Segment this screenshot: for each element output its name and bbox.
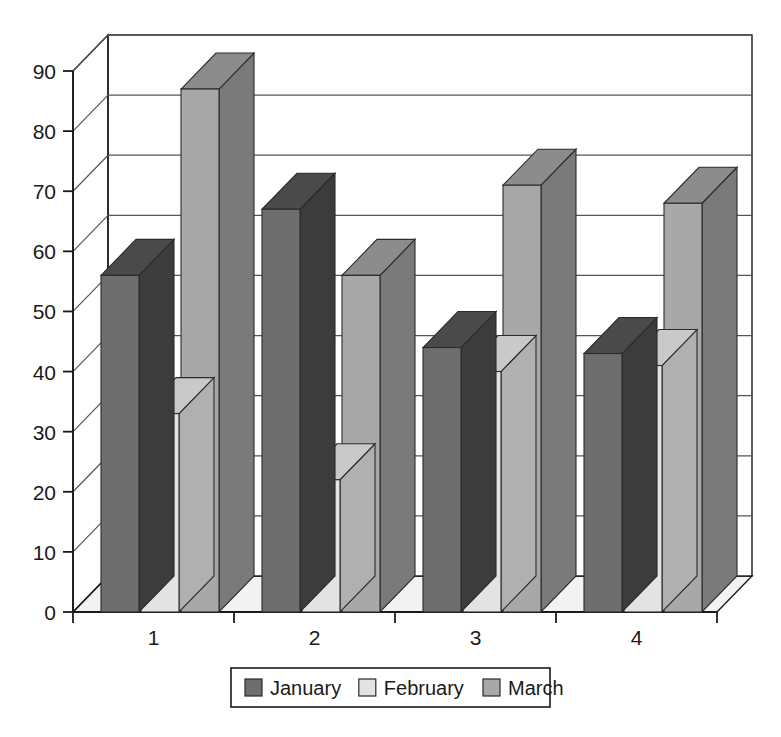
y-tick-label: 20 (33, 481, 56, 504)
legend-swatch (359, 679, 376, 696)
x-axis-ticks: 1234 (73, 612, 717, 649)
bar-january-1[interactable] (101, 239, 174, 612)
y-tick-label: 10 (33, 541, 56, 564)
bar-january-2[interactable] (262, 173, 335, 612)
bar-front-face (262, 209, 300, 612)
bar-side-face (380, 239, 415, 612)
y-tick-label: 0 (44, 601, 56, 624)
y-tick-label: 80 (33, 120, 56, 143)
bar-january-3[interactable] (423, 312, 496, 612)
gridline-depth-connector (73, 35, 108, 71)
gridline-depth-connector (73, 95, 108, 131)
bar-side-face (300, 173, 335, 612)
legend: JanuaryFebruaryMarch (231, 668, 564, 707)
y-tick-label: 70 (33, 180, 56, 203)
legend-label: January (270, 677, 341, 699)
legend-swatch (483, 679, 500, 696)
gridline-depth-connector (73, 215, 108, 251)
bar-side-face (501, 336, 536, 612)
y-tick-label: 40 (33, 361, 56, 384)
y-tick-label: 50 (33, 300, 56, 323)
legend-item-february[interactable]: February (359, 677, 464, 699)
legend-item-january[interactable]: January (245, 677, 341, 699)
y-axis-ticks: 0102030405060708090 (33, 60, 73, 624)
legend-label: March (508, 677, 564, 699)
legend-label: February (384, 677, 464, 699)
x-tick-label: 1 (148, 626, 160, 649)
bar-side-face (622, 318, 657, 612)
bar-front-face (423, 348, 461, 612)
bar-side-face (179, 378, 214, 612)
x-tick-label: 2 (309, 626, 321, 649)
bar-side-face (139, 239, 174, 612)
bar-side-face (219, 53, 254, 612)
x-tick-label: 4 (631, 626, 643, 649)
y-tick-label: 60 (33, 240, 56, 263)
bar-side-face (461, 312, 496, 612)
bar-side-face (702, 167, 737, 612)
chart-canvas: 01020304050607080901234JanuaryFebruaryMa… (0, 0, 781, 737)
y-tick-label: 90 (33, 60, 56, 83)
legend-item-march[interactable]: March (483, 677, 564, 699)
legend-swatch (245, 679, 262, 696)
bar-side-face (662, 330, 697, 612)
y-tick-label: 30 (33, 421, 56, 444)
bar-front-face (584, 354, 622, 612)
bar-chart: 01020304050607080901234JanuaryFebruaryMa… (0, 0, 781, 737)
bar-side-face (541, 149, 576, 612)
bar-january-4[interactable] (584, 318, 657, 612)
bar-front-face (101, 275, 139, 612)
x-tick-label: 3 (470, 626, 482, 649)
gridline-depth-connector (73, 155, 108, 191)
